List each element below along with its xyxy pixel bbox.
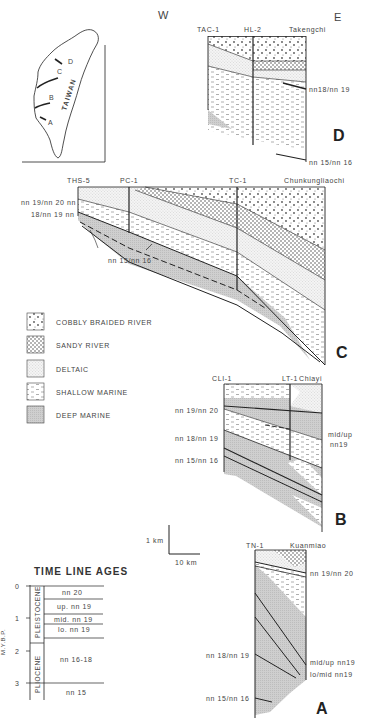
map-marker-b: B bbox=[49, 94, 54, 101]
scale-vertical-label: 1 km bbox=[146, 537, 164, 544]
axis-tick: 3 bbox=[15, 680, 20, 687]
well-label: CLI-1 bbox=[212, 375, 232, 382]
section-B-trace bbox=[35, 103, 50, 108]
zone-label: mid. nn 19 bbox=[54, 616, 93, 623]
cross-section-a: TN-1 Kuanmiao nn 19/nn 20 mid/up nn19 lo… bbox=[206, 542, 355, 718]
time-line-ages-chart: TIME LINE AGES 0 1 2 3 M.Y.B.P. PLEISTOC… bbox=[0, 566, 128, 700]
legend-swatch-deltaic bbox=[27, 360, 44, 377]
well-label: Chiayi bbox=[299, 375, 322, 383]
legend-label: COBBLY BRAIDED RIVER bbox=[56, 319, 152, 326]
epoch-pliocene: PLIOCENE bbox=[34, 655, 41, 693]
legend-swatch-shallow bbox=[27, 383, 44, 400]
biozone-label: nn 15/nn 16 bbox=[206, 695, 250, 702]
biozone-label: nn 15/nn 16 bbox=[309, 159, 353, 166]
zone-label: lo. nn 19 bbox=[58, 626, 90, 633]
biozone-label: nn 15/nn 16 bbox=[175, 457, 219, 464]
section-letter-a: A bbox=[316, 700, 328, 717]
biozone-label: nn 18/nn 19 bbox=[175, 435, 219, 442]
zone-label: nn 16-18 bbox=[60, 656, 92, 663]
east-label: E bbox=[334, 11, 341, 23]
well-label: PC-1 bbox=[120, 177, 138, 184]
scale-horizontal-label: 10 km bbox=[175, 559, 197, 566]
axis-tick: 0 bbox=[15, 583, 20, 590]
cross-section-b: CLI-1 LT-1 Chiayi nn 19/nn 20 nn 18/nn 1… bbox=[175, 375, 353, 532]
well-label: TC-1 bbox=[229, 177, 247, 184]
well-label: TN-1 bbox=[246, 542, 264, 549]
biozone-label: nn 18/nn 19 bbox=[206, 652, 250, 659]
map-marker-c: C bbox=[57, 68, 63, 75]
taiwan-index-map: D C B A TAIWAN bbox=[22, 30, 105, 162]
well-label: LT-1 bbox=[282, 375, 298, 382]
geologic-cross-sections-figure: W E D C B A TAIWAN TAC-1 HL-2 Takengchi bbox=[0, 0, 370, 722]
section-D-trace bbox=[55, 59, 62, 64]
biozone-label: nn 19/nn 20 bbox=[175, 407, 219, 414]
map-taiwan-label: TAIWAN bbox=[60, 78, 77, 112]
west-label: W bbox=[158, 9, 169, 21]
legend-swatch-deep bbox=[27, 406, 44, 423]
cross-section-c: THS-5 PC-1 TC-1 Chunkungliaochi nn 19/nn… bbox=[21, 177, 348, 365]
section-C-trace bbox=[37, 78, 58, 88]
section-A-trace bbox=[40, 117, 46, 120]
legend-label: SANDY RIVER bbox=[56, 342, 110, 349]
axis-label: M.Y.B.P. bbox=[0, 629, 6, 655]
biozone-label: nn19 bbox=[330, 441, 348, 448]
axis-tick: 1 bbox=[15, 615, 20, 622]
section-letter-d: D bbox=[333, 127, 345, 144]
legend-swatch-sandy bbox=[27, 336, 44, 353]
legend-label: SHALLOW MARINE bbox=[56, 389, 128, 396]
well-label: Kuanmiao bbox=[290, 542, 326, 549]
section-letter-c: C bbox=[336, 344, 348, 361]
time-chart-title: TIME LINE AGES bbox=[34, 566, 128, 577]
map-marker-a: A bbox=[48, 119, 53, 126]
biozone-label: mid/up bbox=[328, 431, 353, 439]
legend-label: DEEP MARINE bbox=[56, 412, 111, 419]
biozone-label: nn 19/nn 20 bbox=[310, 570, 354, 577]
map-marker-d: D bbox=[68, 58, 74, 65]
zone-label: nn 15 bbox=[66, 689, 87, 696]
biozone-label: nn18/nn 19 bbox=[309, 86, 350, 93]
epoch-pleistocene: PLEISTOCENE bbox=[34, 586, 41, 638]
well-label: TAC-1 bbox=[197, 26, 220, 33]
well-label: THS-5 bbox=[67, 177, 90, 184]
zone-label: nn 20 bbox=[62, 589, 83, 596]
biozone-label: nn 15/nn 16 bbox=[108, 257, 152, 264]
cross-section-d: TAC-1 HL-2 Takengchi nn18/nn 19 D nn 15/… bbox=[197, 26, 353, 166]
biozone-label: 18/nn 19 nn bbox=[31, 211, 75, 218]
well-label: HL-2 bbox=[244, 26, 262, 33]
section-letter-b: B bbox=[335, 511, 347, 528]
scale-bar: 1 km 10 km bbox=[146, 525, 200, 566]
biozone-label: lo/mid nn19 bbox=[310, 671, 353, 678]
axis-tick: 2 bbox=[15, 648, 20, 655]
well-label: Takengchi bbox=[289, 26, 326, 34]
facies-legend: COBBLY BRAIDED RIVER SANDY RIVER DELTAIC… bbox=[27, 313, 152, 423]
well-label: Chunkungliaochi bbox=[284, 177, 345, 185]
zone-label: up. nn 19 bbox=[57, 603, 92, 611]
biozone-label: nn 19/nn 20 nn bbox=[21, 199, 76, 206]
biozone-label: mid/up nn19 bbox=[310, 659, 355, 667]
legend-label: DELTAIC bbox=[56, 366, 89, 373]
legend-swatch-cobbly bbox=[27, 313, 44, 330]
